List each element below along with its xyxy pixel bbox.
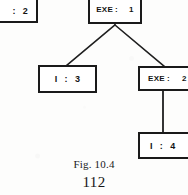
- node-separator: :: [165, 74, 172, 83]
- tree-node-i-4: I : 4: [138, 132, 188, 159]
- node-separator: :: [113, 5, 120, 14]
- node-separator: :: [10, 6, 22, 16]
- node-separator: :: [153, 141, 170, 151]
- figure-caption: Fig. 10.4: [0, 158, 188, 170]
- figure-page: : 2 EXE : 1 I : 3 EXE : 2 I : 4 Fig. 10.…: [0, 0, 188, 195]
- edge-exe1-to-i3: [67, 25, 115, 65]
- node-label: EXE: [96, 5, 113, 14]
- node-value: 2: [23, 6, 28, 16]
- node-label: EXE: [148, 74, 165, 83]
- tree-node-exe-2: EXE : 2: [138, 66, 188, 91]
- node-value: 1: [120, 5, 134, 14]
- tree-node-partial-2: : 2: [0, 0, 38, 23]
- node-value: 2: [172, 74, 187, 83]
- tree-node-i-3: I : 3: [38, 65, 97, 93]
- node-value: 4: [170, 141, 175, 151]
- edge-exe1-to-exe2: [115, 25, 164, 66]
- page-number: 112: [0, 174, 188, 191]
- node-separator: :: [58, 74, 75, 84]
- node-value: 3: [75, 74, 80, 84]
- tree-node-exe-1: EXE : 1: [88, 0, 142, 24]
